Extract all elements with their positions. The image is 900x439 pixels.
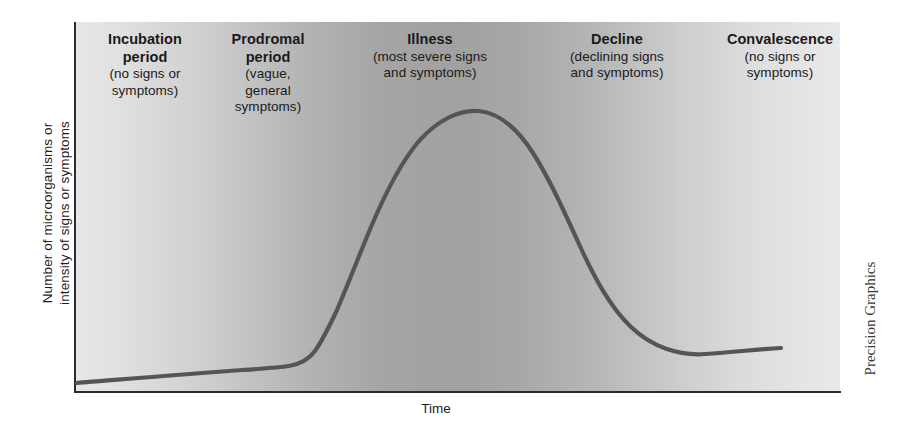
stage-sub-decline-line1: (declining signs — [528, 49, 706, 66]
stage-sub-illness-line1: (most severe signs — [330, 49, 530, 66]
stage-title-decline: Decline — [528, 31, 706, 49]
stage-label-incubation: Incubation period (no signs or symptoms) — [84, 31, 206, 99]
stage-sub-convalescence-line2: symptoms) — [700, 65, 860, 82]
credit-label: Precision Graphics — [862, 234, 879, 404]
disease-stages-figure: Number of microorganisms or intensity of… — [0, 0, 900, 439]
x-axis-label: Time — [390, 401, 482, 416]
stage-label-convalescence: Convalescence (no signs or symptoms) — [700, 31, 860, 82]
stage-sub-prodromal-line1: (vague, — [206, 66, 330, 83]
stage-sub-decline-line2: and symptoms) — [528, 65, 706, 82]
stage-label-illness: Illness (most severe signs and symptoms) — [330, 31, 530, 82]
stage-title-incubation: Incubation — [84, 31, 206, 49]
stage-title-illness: Illness — [330, 31, 530, 49]
stage-title-prodromal: Prodromal — [206, 31, 330, 49]
stage-title-convalescence: Convalescence — [700, 31, 860, 49]
stage-sub-convalescence-line1: (no signs or — [700, 49, 860, 66]
y-axis-label: Number of microorganisms or intensity of… — [39, 63, 73, 363]
stage-sub-prodromal-line2: general — [206, 83, 330, 100]
y-axis-label-line-1: Number of microorganisms or — [40, 123, 55, 304]
stage-title-prodromal-line2: period — [206, 49, 330, 67]
stage-sub-incubation-line2: symptoms) — [84, 83, 206, 100]
stage-sub-prodromal-line3: symptoms) — [206, 99, 330, 116]
stage-sub-incubation-line1: (no signs or — [84, 66, 206, 83]
stage-label-decline: Decline (declining signs and symptoms) — [528, 31, 706, 82]
stage-title-incubation-line2: period — [84, 49, 206, 67]
stage-sub-illness-line2: and symptoms) — [330, 65, 530, 82]
y-axis-label-line-2: intensity of signs or symptoms — [56, 63, 73, 363]
stage-label-prodromal: Prodromal period (vague, general symptom… — [206, 31, 330, 116]
